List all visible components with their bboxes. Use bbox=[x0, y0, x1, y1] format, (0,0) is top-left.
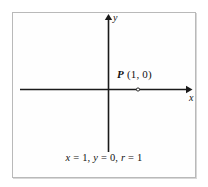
point-p-marker bbox=[136, 88, 139, 91]
caption-x-value: = 1, bbox=[70, 152, 93, 163]
point-p-coords-value: (1, 0) bbox=[127, 68, 152, 80]
y-axis-label: y bbox=[113, 13, 117, 23]
point-p-name: P bbox=[117, 68, 124, 80]
figure-container: y x P (1, 0) x = 1, y = 0, r = 1 bbox=[0, 0, 208, 187]
point-p-label: P (1, 0) bbox=[117, 69, 152, 80]
x-axis-label: x bbox=[189, 93, 193, 103]
y-axis-arrowhead bbox=[105, 14, 112, 20]
caption-r-value: = 1 bbox=[125, 152, 142, 163]
caption-y-value: = 0, bbox=[98, 152, 121, 163]
figure-caption: x = 1, y = 0, r = 1 bbox=[0, 153, 208, 164]
